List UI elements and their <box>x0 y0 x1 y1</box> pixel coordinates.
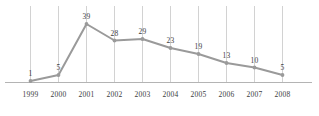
x-tick-label: 2001 <box>79 90 95 99</box>
data-point-marker <box>113 39 117 43</box>
data-point-marker <box>29 79 33 83</box>
x-tick-label: 2008 <box>275 90 291 99</box>
data-point-marker <box>197 52 201 56</box>
data-point-marker <box>141 37 145 41</box>
x-tick-label: 2007 <box>247 90 263 99</box>
data-point-marker <box>225 61 229 65</box>
series-line <box>31 24 283 81</box>
data-value-label: 13 <box>223 51 231 60</box>
chart-plot-area <box>0 0 319 116</box>
data-value-label: 29 <box>139 27 147 36</box>
x-tick-label: 2004 <box>163 90 179 99</box>
data-value-label: 19 <box>195 42 203 51</box>
x-tick-label: 2005 <box>191 90 207 99</box>
data-point-marker <box>253 66 257 70</box>
x-tick-label: 2006 <box>219 90 235 99</box>
data-value-label: 5 <box>281 63 285 72</box>
data-point-marker <box>57 73 61 77</box>
data-value-label: 5 <box>57 63 61 72</box>
data-value-label: 39 <box>83 12 91 21</box>
line-chart: 15392829231913105 1999200020012002200320… <box>0 0 319 116</box>
data-value-label: 23 <box>167 36 175 45</box>
data-point-marker <box>85 22 89 26</box>
x-tick-label: 1999 <box>23 90 39 99</box>
data-value-label: 10 <box>251 56 259 65</box>
data-point-markers <box>29 22 285 83</box>
data-point-marker <box>281 73 285 77</box>
data-point-marker <box>169 46 173 50</box>
x-tick-label: 2002 <box>107 90 123 99</box>
x-tick-label: 2003 <box>135 90 151 99</box>
x-tick-label: 2000 <box>51 90 67 99</box>
data-value-label: 1 <box>29 69 33 78</box>
data-value-label: 28 <box>111 29 119 38</box>
